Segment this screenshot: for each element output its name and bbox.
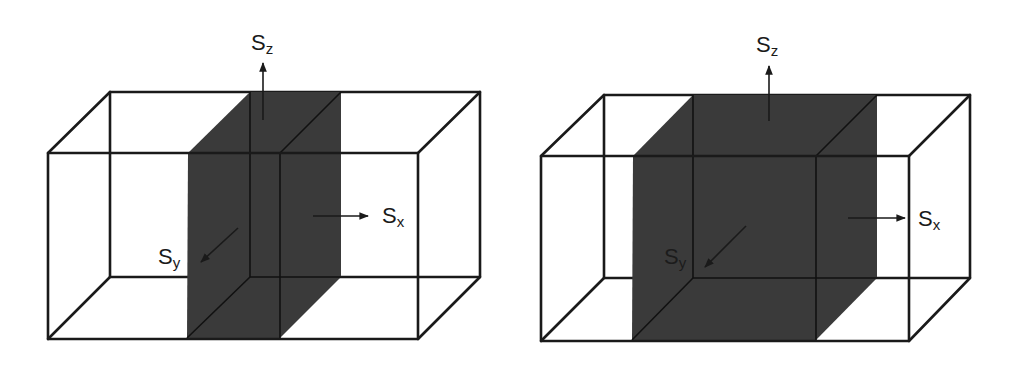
left-sz-label: Sz <box>251 30 273 57</box>
diagram-canvas: Sz Sx Sy Sz Sx Sy <box>0 0 1018 368</box>
right-edge-br <box>909 278 970 341</box>
left-edge-bl <box>48 277 110 339</box>
left-edge-br <box>418 277 480 339</box>
left-box-diagram: Sz Sx Sy <box>48 30 480 339</box>
right-sx-label: Sx <box>918 206 941 233</box>
left-edge-tr <box>418 92 480 153</box>
right-edge-tr <box>909 95 970 156</box>
right-edge-bl <box>541 278 604 341</box>
left-edge-tl <box>48 92 110 153</box>
right-sz-label: Sz <box>756 32 778 59</box>
left-sx-label: Sx <box>382 203 405 230</box>
left-sy-label: Sy <box>158 244 181 271</box>
right-box-diagram: Sz Sx Sy <box>541 32 970 341</box>
left-dark-slab <box>187 92 341 338</box>
right-edge-tl <box>541 95 604 156</box>
